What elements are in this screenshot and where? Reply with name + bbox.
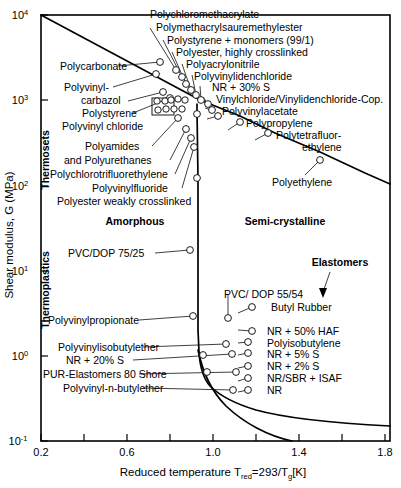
label-nr-5s: NR + 5% S — [267, 348, 319, 360]
label-pvc-dop-5554: PVC/ DOP 55/54 — [224, 288, 303, 300]
label-butyl-rubber: Butyl Rubber — [271, 301, 332, 313]
label-polychlorotrifluorethylene: Polychlorotrifluorethylene — [50, 168, 168, 180]
label-polyvinyl-carbazol-line2: carbazol — [81, 94, 121, 106]
label-polyamides-line2: and Polyurethanes — [64, 154, 152, 166]
labels-mid-left: PVC/DOP 75/25 Polyvinylpropionate Polyvi… — [43, 247, 167, 394]
x-tick-2: 1.0 — [205, 446, 220, 458]
y-tick-base-4: 10 — [12, 9, 24, 21]
x-axis-title: Reduced temperature Tred=293/Tg[K] — [120, 466, 306, 481]
labels-left: Polycarbonate Polyvinyl- carbazol Polyst… — [50, 60, 191, 207]
x-tick-labels: 0.2 0.6 1.0 1.4 1.8 — [33, 446, 392, 458]
label-polyvinyl-chloride: Polyvinyl chloride — [62, 120, 143, 132]
label-polyamides-line1: Polyamides — [85, 140, 139, 152]
label-polyethylene: Polyethylene — [272, 176, 332, 188]
label-polyvinylpropionate: Polyvinylpropionate — [48, 314, 139, 326]
label-polytetrafluor: Polytetrafluor- — [276, 129, 342, 141]
x-axis-title-main: Reduced temperature T — [120, 466, 241, 478]
elastomers-arrow-icon — [319, 272, 330, 298]
label-pur-elastomers-80-shore: PUR-Elastomers 80 Shore — [43, 368, 167, 380]
label-polyvinyl-n-butylether: Polyvinyl-n-butylether — [63, 382, 164, 394]
y-tick-base-3: 10 — [12, 94, 24, 106]
svg-text:103: 103 — [12, 93, 28, 106]
label-polystyrene: Polystyrene — [82, 107, 137, 119]
label-polyvinylacetate: Polyvinylacetate — [222, 105, 298, 117]
label-vinylchloride-copolymer: Vinylchloride/Vinylidenchloride-Cop. — [216, 93, 383, 105]
y-tick-exp-3: 3 — [24, 93, 28, 102]
label-nr: NR — [267, 384, 283, 396]
x-tick-1: 0.6 — [119, 446, 134, 458]
label-polychloromethacrylate: Polychloromethacrylate — [150, 8, 259, 20]
label-polyvinylfluoride: Polyvinylfluoride — [92, 182, 168, 194]
region-label-amorphous: Amorphous — [106, 215, 165, 227]
x-tick-4: 1.8 — [377, 446, 392, 458]
label-polyvinylisobutylether: Polyvinylisobutylether — [58, 341, 159, 353]
y-tick-exp-0: 0 — [24, 349, 28, 358]
svg-text:104: 104 — [12, 8, 28, 21]
y-tick-base-0: 10 — [12, 350, 24, 362]
label-nr-sbr-isaf: NR/SBR + ISAF — [267, 372, 342, 384]
region-label-thermosets: Thermosets — [39, 130, 51, 190]
label-nr-20s: NR + 20% S — [66, 354, 124, 366]
label-polystyrene-monomers: Polystyrene + monomers (99/1) — [167, 34, 314, 46]
label-nr-30s: NR + 30% S — [212, 81, 270, 93]
region-label-elastomers: Elastomers — [312, 256, 369, 268]
label-polyacrylonitrile: Polyacrylonitrile — [186, 58, 260, 70]
label-polyester-highly-crosslinked: Polyester, highly crosslinked — [176, 46, 308, 58]
svg-text:100: 100 — [12, 349, 28, 362]
x-axis-title-sub: red — [241, 472, 252, 481]
x-axis-title-mid: =293/T — [252, 466, 288, 478]
label-pvc-dop-7525: PVC/DOP 75/25 — [68, 247, 144, 259]
label-polypropylene: Polypropylene — [246, 117, 313, 129]
label-ethylene: ethylene — [302, 141, 342, 153]
x-tick-0: 0.2 — [33, 446, 48, 458]
y-tick-exp-2: 2 — [24, 179, 28, 188]
label-polycarbonate: Polycarbonate — [60, 60, 127, 72]
x-tick-3: 1.4 — [291, 446, 306, 458]
y-tick-base-m1: 10 — [9, 435, 21, 447]
y-tick-exp-4: 4 — [24, 8, 28, 17]
chart-figure: 104 103 102 101 100 10-1 Shear modulus, … — [0, 0, 401, 488]
y-axis-title: Shear modulus, G (MPa) — [3, 171, 15, 298]
label-polyvinyl-carbazol-line1: Polyvinyl- — [64, 81, 109, 93]
y-tick-exp-1: 1 — [24, 264, 28, 273]
y-tick-exp-m1: -1 — [21, 434, 28, 443]
label-polyester-weakly-crosslinked: Polyester weakly crosslinked — [57, 195, 191, 207]
label-nr-2s: NR + 2% S — [267, 360, 319, 372]
x-axis-ticks — [41, 434, 385, 441]
label-polymethacrylsauremethylester: Polymethacrylsauremethylester — [156, 21, 303, 33]
x-axis-title-end: [K] — [292, 466, 306, 478]
region-label-semicrystalline: Semi-crystalline — [245, 215, 326, 227]
svg-text:10-1: 10-1 — [9, 434, 28, 447]
chart-svg: 104 103 102 101 100 10-1 Shear modulus, … — [0, 0, 401, 488]
label-nr-50-haf: NR + 50% HAF — [267, 325, 339, 337]
